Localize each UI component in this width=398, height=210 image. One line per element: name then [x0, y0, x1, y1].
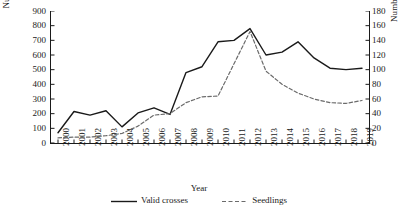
legend-label: Seedlings [252, 195, 287, 205]
axis-tick-label: 100 [372, 65, 386, 74]
axis-tick-label: 300 [33, 95, 47, 104]
axis-tick-label: 40 [372, 109, 381, 118]
axis-tick-label: 0 [42, 139, 47, 148]
axis-tick-label: 900 [33, 7, 47, 16]
series-line-valid-crosses [58, 29, 362, 133]
axis-tick-label: 500 [33, 65, 47, 74]
legend-item-valid-crosses: Valid crosses [111, 195, 188, 205]
x-axis-title: Year [0, 183, 398, 193]
plot-area [50, 11, 370, 143]
axis-tick-label: 80 [372, 80, 381, 89]
axis-tick-label: 120 [372, 51, 386, 60]
legend-swatch-dashed-icon [222, 197, 248, 204]
axis-tick-label: 60 [372, 95, 381, 104]
y-axis-right-title: Number of seedlings ( 1,000 ) [389, 0, 398, 22]
axis-tick-label: 140 [372, 36, 386, 45]
axis-tick-label: 600 [33, 51, 47, 60]
axis-tick-label: 160 [372, 21, 386, 30]
axis-tick-label: 200 [33, 109, 47, 118]
chart-figure: Number of crosses Number of seedlings ( … [0, 0, 398, 210]
axis-tick-label: 100 [33, 124, 47, 133]
legend-label: Valid crosses [141, 195, 188, 205]
axis-tick-label: 180 [372, 7, 386, 16]
axis-tick-label: 400 [33, 80, 47, 89]
series-line-seedlings [58, 32, 362, 138]
axis-tick-label: 700 [33, 36, 47, 45]
axis-tick-label: 800 [33, 21, 47, 30]
legend-swatch-solid-icon [111, 197, 137, 204]
legend-item-seedlings: Seedlings [222, 195, 287, 205]
y-axis-left-title: Number of crosses [1, 0, 11, 22]
chart-legend: Valid crosses Seedlings [0, 195, 398, 205]
